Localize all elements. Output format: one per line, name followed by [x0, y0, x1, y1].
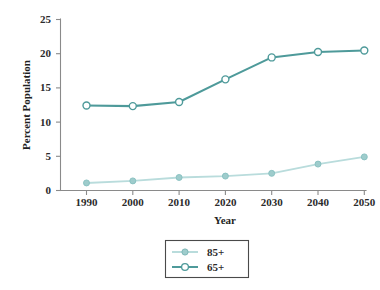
data-point: [268, 54, 275, 61]
y-tick-label-15: 15: [40, 81, 52, 93]
chart-container: 25 20 15 10 5 0 Percent Population 1990 …: [0, 0, 380, 290]
y-tick-label-25: 25: [40, 13, 52, 25]
data-point: [129, 103, 136, 110]
x-tick-label-1990: 1990: [76, 196, 99, 208]
data-point: [176, 99, 183, 106]
data-point: [222, 76, 229, 83]
legend-label-65: 65+: [207, 261, 224, 273]
y-axis-title: Percent Population: [20, 60, 32, 150]
data-point: [176, 174, 182, 180]
data-point: [315, 48, 322, 55]
data-point: [83, 102, 90, 109]
x-tick-label-2040: 2040: [307, 196, 330, 208]
data-point: [84, 180, 90, 186]
data-point: [361, 154, 367, 160]
legend-marker-85: [182, 249, 188, 255]
x-axis-title: Year: [214, 214, 236, 226]
x-tick-label-2050: 2050: [353, 196, 376, 208]
y-tick-label-0: 0: [46, 184, 52, 196]
line-chart: 25 20 15 10 5 0 Percent Population 1990 …: [0, 0, 380, 290]
x-tick-label-2000: 2000: [122, 196, 145, 208]
legend-marker-65: [182, 264, 189, 271]
legend-label-85: 85+: [207, 246, 224, 258]
y-tick-label-5: 5: [46, 150, 52, 162]
data-point: [361, 47, 368, 54]
data-point: [269, 170, 275, 176]
data-point: [130, 178, 136, 184]
data-point: [315, 161, 321, 167]
y-tick-label-20: 20: [40, 47, 52, 59]
data-point: [222, 173, 228, 179]
x-tick-label-2010: 2010: [168, 196, 191, 208]
x-tick-label-2020: 2020: [214, 196, 237, 208]
x-tick-label-2030: 2030: [261, 196, 284, 208]
y-tick-label-10: 10: [40, 116, 52, 128]
legend: 85+ 65+: [166, 241, 249, 278]
